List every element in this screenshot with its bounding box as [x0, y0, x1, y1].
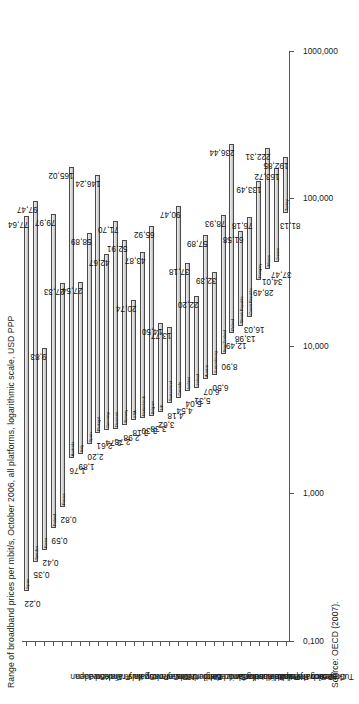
bar-min-value: 16,03 — [244, 324, 265, 333]
bar-max-value: 79,97 — [35, 217, 56, 226]
bar-max-value: 9,83 — [31, 352, 47, 361]
bar-min-value: 0,82 — [61, 515, 77, 524]
bar-max-value: 13,77 — [151, 330, 172, 339]
bar-max-value: 90,47 — [160, 209, 181, 218]
bar-min-value: 8,90 — [222, 362, 238, 371]
bar-norway: Norway — [122, 240, 127, 424]
category-tick — [62, 641, 63, 646]
value-axis-tick-label: 100,000 — [303, 194, 333, 204]
value-axis — [289, 52, 290, 642]
bar-greece: Greece — [274, 168, 279, 262]
category-tick — [259, 641, 260, 646]
bar-country-label: Greece — [275, 248, 280, 261]
category-tick — [286, 641, 287, 646]
bar-max-value: 165,02 — [49, 171, 74, 180]
bar-min-value: 28,49 — [253, 287, 274, 296]
bar-max-value: 61,58 — [223, 234, 244, 243]
value-axis-tick — [289, 51, 294, 52]
bar-country-label: Mexico — [266, 255, 271, 267]
bar-max-value: 65,92 — [134, 230, 155, 239]
category-tick — [116, 641, 117, 646]
category-tick — [71, 641, 72, 646]
bar-country-label: Switzerland — [168, 381, 173, 401]
bar-japan: Japan — [24, 216, 29, 592]
category-tick — [26, 641, 27, 646]
bar-max-value: 71,70 — [98, 224, 119, 233]
bar-max-value: 52,91 — [107, 244, 128, 253]
bar-max-value: 76,18 — [232, 220, 253, 229]
bar-max-value: 163,72 — [254, 171, 279, 180]
value-axis-tick — [289, 494, 294, 495]
bar-max-value: 22,20 — [178, 299, 199, 308]
category-tick — [143, 641, 144, 646]
category-tick — [44, 641, 45, 646]
bar-germany: Germany — [104, 254, 109, 430]
bar-france: France — [60, 283, 65, 508]
category-tick — [169, 641, 170, 646]
category-tick — [205, 641, 206, 646]
category-tick — [268, 641, 269, 646]
category-tick — [35, 641, 36, 646]
bar-country-label: Austria — [204, 365, 209, 377]
value-axis-tick — [289, 199, 294, 200]
category-tick — [241, 641, 242, 646]
bar-australia: Australia — [69, 167, 74, 458]
bar-korea: Korea — [42, 348, 47, 550]
bar-max-value: 43,87 — [125, 256, 146, 265]
bar-max-value: 58,89 — [71, 237, 92, 246]
bar-max-value: 27,54 — [62, 286, 83, 295]
value-axis-tick-label: 0,100 — [303, 636, 324, 646]
value-axis-tick-label: 1,000 — [303, 489, 324, 499]
bar-italy: Italy — [78, 282, 83, 454]
bar-czech-republic: Czech Republic — [247, 217, 252, 317]
bar-max-value: 97,47 — [17, 205, 38, 214]
category-tick — [187, 641, 188, 646]
category-tick — [107, 641, 108, 646]
bar-iceland: Iceland — [185, 263, 190, 391]
bar-country-label: Australia — [70, 442, 75, 457]
bar-sweden: Sweden — [33, 201, 38, 562]
category-tick — [214, 641, 215, 646]
category-tick — [80, 641, 81, 646]
value-axis-tick — [289, 641, 294, 642]
plot-area: 0,1001,00010,000100,0001000,000 JapanSwe… — [22, 52, 290, 642]
bar-min-value: 1,89 — [79, 461, 95, 470]
bar-country-label: Denmark — [114, 411, 119, 427]
bar-hungary: Hungary — [256, 181, 261, 280]
bar-min-value: 2,20 — [88, 452, 104, 461]
bar-max-value: 57,89 — [187, 238, 208, 247]
category-tick — [134, 641, 135, 646]
bar-luxembourg: Luxembourg — [212, 272, 217, 375]
bar-country-label: Turkey — [284, 199, 289, 210]
bar-min-value: 0,35 — [34, 569, 50, 578]
category-tick — [196, 641, 197, 646]
bar-min-value: 5,31 — [195, 395, 211, 404]
bar-min-value: 3,62 — [159, 420, 175, 429]
bar-max-value: 37,18 — [169, 266, 190, 275]
bar-country-label: Italy — [79, 445, 84, 452]
bar-country-label: Norway — [123, 410, 128, 423]
bar-slovak-republic: Slovak Republic — [238, 231, 243, 326]
category-tick — [53, 641, 54, 646]
bar-max-value: 42,67 — [89, 258, 110, 267]
bar-max-value: 146,24 — [75, 179, 100, 188]
bar-min-value: 6,50 — [213, 382, 229, 391]
bar-country-label: Poland — [230, 319, 235, 331]
bar-min-value: 13,98 — [235, 333, 256, 342]
bar-country-label: Germany — [105, 412, 110, 428]
bar-country-label: USA — [132, 410, 137, 418]
bar-country-label: Ireland — [195, 374, 200, 386]
chart-title: Range of broadband prices per mbit/s, Oc… — [6, 316, 16, 688]
bar-country-label: Canada — [177, 382, 182, 395]
source-note: Source: OECD (2007). — [330, 602, 340, 688]
bar-max-value: 133,49 — [236, 185, 261, 194]
bar-country-label: Sweden — [34, 546, 39, 560]
bar-min-value: 81,13 — [280, 220, 301, 229]
bar-country-label: France — [61, 493, 66, 505]
bar-country-label: Luxembourg — [213, 351, 218, 372]
bar-country-label: Belgium — [150, 401, 155, 415]
bar-min-value: 0,42 — [43, 558, 59, 567]
value-axis-tick — [289, 346, 294, 347]
bar-country-label: Portugal — [96, 417, 101, 431]
